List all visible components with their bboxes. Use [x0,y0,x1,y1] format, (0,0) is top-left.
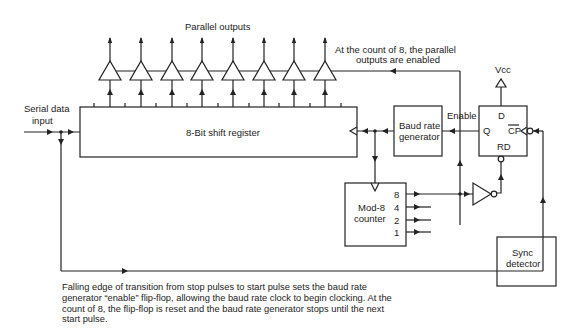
counter-label-1: Mod-8 [358,202,385,213]
buffer-5 [222,38,244,107]
rd-inversion-bubble [498,156,504,162]
enable-label: Enable [447,110,477,121]
vcc-icon [496,79,506,87]
ff-d-label: D [498,110,505,121]
baud-label-2: generator [399,131,440,142]
parallel-outputs-label: Parallel outputs [185,21,251,32]
serial-input-label-1: Serial data [24,103,70,114]
baud-label-1: Baud rate [399,120,440,131]
arrow-icon [390,68,396,74]
buffer-1 [99,38,121,107]
figure-caption: Falling edge of transition from stop pul… [62,282,392,325]
buffer-7 [283,38,305,107]
buffer-3 [161,38,183,107]
ff-rd-label: RD [497,141,511,152]
ff-q-label: Q [483,125,490,136]
serial-input-label-2: input [32,115,53,126]
buffer-8 [314,38,336,107]
sync-label-1: Sync [512,247,533,258]
buffer-4 [191,38,213,107]
buffer-6 [253,38,275,107]
counter-out-1: 1 [394,227,399,238]
inverter-bubble [491,191,497,197]
buffer-2 [130,38,152,107]
count-note-line2: outputs are enabled [356,54,440,65]
shift-register-label: 8-Bit shift register [186,127,260,138]
ff-cp-label: CP [508,125,521,136]
cp-inversion-bubble [527,128,533,134]
sync-label-2: detector [506,258,540,269]
vcc-label: Vcc [495,64,511,75]
counter-out-2: 2 [394,215,399,226]
tri-state-buffers [99,38,336,107]
counter-label-2: counter [354,213,386,224]
counter-out-8: 8 [394,189,399,200]
inverter-icon [473,183,491,205]
counter-out-4: 4 [394,202,399,213]
